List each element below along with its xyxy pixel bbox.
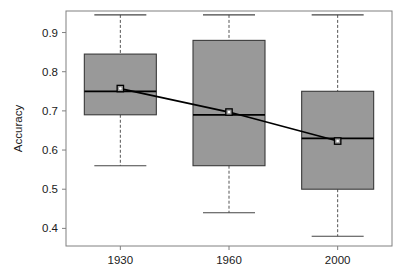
x-axis-tick-label: 2000 xyxy=(325,254,351,266)
mean-marker-dot xyxy=(119,87,122,90)
y-axis-tick-label: 0.9 xyxy=(42,27,58,39)
box-rect xyxy=(84,54,156,115)
boxplot-chart: 0.40.50.60.70.80.9Accuracy193019602000 xyxy=(0,0,408,279)
box-rect xyxy=(193,40,265,165)
y-axis-tick-label: 0.4 xyxy=(42,222,59,234)
mean-marker-dot xyxy=(336,140,339,143)
y-axis-title: Accuracy xyxy=(12,105,24,153)
plot-canvas: 0.40.50.60.70.80.9Accuracy193019602000 xyxy=(0,0,408,279)
y-axis-tick-label: 0.5 xyxy=(42,183,58,195)
y-axis-tick-label: 0.8 xyxy=(42,66,58,78)
x-axis-tick-label: 1960 xyxy=(216,254,242,266)
x-axis-tick-label: 1930 xyxy=(108,254,134,266)
box-group xyxy=(302,15,374,236)
y-axis-tick-label: 0.7 xyxy=(42,105,58,117)
y-axis-tick-label: 0.6 xyxy=(42,144,58,156)
mean-marker-dot xyxy=(228,111,231,114)
